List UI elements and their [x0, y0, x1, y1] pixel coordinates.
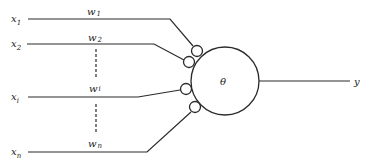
synapse-2	[184, 57, 195, 68]
output-label: y	[353, 76, 360, 87]
input-line-2	[27, 44, 184, 60]
synapse-1	[192, 46, 203, 57]
input-line-i	[28, 90, 180, 97]
weight-label-wi: wi	[89, 83, 101, 94]
weight-label-wn: wn	[88, 138, 103, 150]
weight-label-w2: w2	[88, 32, 103, 44]
weight-label-w1: w1	[87, 6, 101, 18]
input-i: xi wi	[11, 83, 192, 105]
input-n: xn wn	[11, 102, 201, 161]
input-line-n	[28, 112, 191, 152]
input-2: x2 w2	[11, 32, 195, 68]
neuron-diagram: x1 w1 x2 w2 xi wi xn wn θ y	[0, 0, 370, 164]
synapse-i	[181, 84, 192, 95]
input-label-xi: xi	[11, 91, 19, 105]
input-1: x1 w1	[11, 6, 203, 57]
threshold-label: θ	[220, 76, 226, 87]
input-line-1	[28, 19, 193, 46]
input-label-x2: x2	[11, 38, 22, 52]
input-label-xn: xn	[11, 146, 22, 160]
input-label-x1: x1	[11, 13, 21, 27]
